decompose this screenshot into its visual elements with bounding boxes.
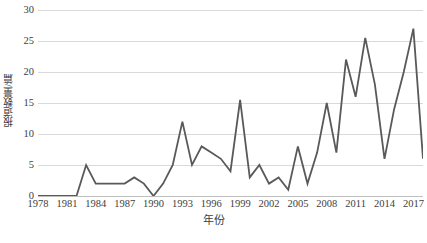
y-axis-tick-label: 20 (12, 67, 34, 77)
x-axis-tick-label: 1999 (230, 198, 251, 210)
x-axis-tick-label: 1987 (114, 198, 135, 210)
y-axis-tick-label: 30 (12, 5, 34, 15)
x-axis-tick-label: 1990 (143, 198, 164, 210)
x-axis-tick-label: 1981 (56, 198, 77, 210)
plot-area (38, 10, 423, 196)
gridline (38, 196, 423, 197)
line-chart: 报道数量/篇 051015202530 19781981198419871990… (0, 0, 427, 243)
y-axis-tick-label: 5 (12, 160, 34, 170)
data-series-line (38, 10, 423, 196)
x-axis-tick-label: 2002 (259, 198, 280, 210)
x-axis-tick-label: 1978 (28, 198, 49, 210)
x-axis-tick-label: 2017 (403, 198, 424, 210)
x-axis-tick-label: 2014 (374, 198, 395, 210)
x-axis-tick-label: 1984 (85, 198, 106, 210)
x-axis-tick-label: 2008 (316, 198, 337, 210)
x-axis-tick-label: 2011 (345, 198, 366, 210)
series-polyline (38, 29, 423, 196)
y-axis-tick-label: 10 (12, 129, 34, 139)
y-axis-tick-label: 15 (12, 98, 34, 108)
x-axis-tick-labels: 1978198119841987199019931996199920022005… (38, 198, 423, 214)
x-axis-tick-label: 1996 (201, 198, 222, 210)
x-axis-title: 年份 (0, 214, 427, 227)
x-axis-tick-label: 1993 (172, 198, 193, 210)
y-axis-tick-label: 25 (12, 36, 34, 46)
x-axis-tick-label: 2005 (287, 198, 308, 210)
